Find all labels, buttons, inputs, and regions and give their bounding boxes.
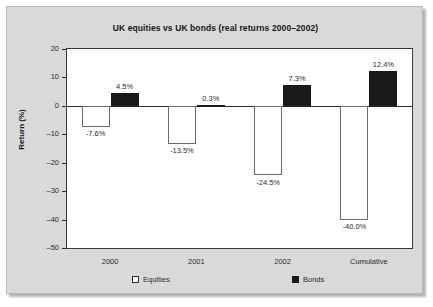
y-axis-tick-mark: [62, 134, 67, 135]
x-axis-tick-label: 2000: [102, 257, 119, 266]
y-axis-tick-label: 0: [33, 102, 59, 110]
x-axis-tick-label: Cumulative: [350, 257, 388, 266]
plot-area: 20100–10–20–30–40–50-7.6%4.5%-13.5%0.3%-…: [66, 48, 413, 249]
bar-equities-2001: [168, 106, 196, 144]
y-axis-tick-label: –50: [33, 244, 59, 252]
y-axis-tick-label: –20: [33, 159, 59, 167]
bar-value-label: -40.0%: [328, 223, 380, 231]
chart-title: UK equities vs UK bonds (real returns 20…: [7, 23, 424, 33]
bar-value-label: 12.4%: [357, 61, 409, 69]
bar-value-label: 7.3%: [271, 75, 323, 83]
bar-bonds-2002: [283, 85, 311, 106]
y-axis-tick-label: –40: [33, 216, 59, 224]
bar-value-label: 4.5%: [99, 83, 151, 91]
y-axis-tick-mark: [62, 163, 67, 164]
legend-item-bonds[interactable]: Bonds: [292, 275, 324, 284]
bar-equities-2000: [82, 106, 110, 128]
bar-bonds-2000: [111, 93, 139, 106]
y-axis-tick-label: 10: [33, 74, 59, 82]
y-axis-tick-mark: [62, 77, 67, 78]
x-axis-tick-label: 2001: [188, 257, 205, 266]
bar-value-label: -13.5%: [156, 147, 208, 155]
y-axis-title: Return (%): [17, 90, 26, 170]
bar-bonds-cumulative: [369, 71, 397, 106]
legend-item-equities[interactable]: Equities: [132, 275, 170, 284]
bar-value-label: -24.5%: [242, 179, 294, 187]
y-axis-tick-label: 20: [33, 45, 59, 53]
bar-bonds-2001: [197, 105, 225, 107]
legend-swatch-equities: [132, 276, 139, 283]
y-axis-tick-mark: [62, 191, 67, 192]
chart-figure: UK equities vs UK bonds (real returns 20…: [6, 6, 423, 294]
y-axis-tick-mark: [62, 220, 67, 221]
y-axis-tick-label: –30: [33, 187, 59, 195]
plot-inner: 20100–10–20–30–40–50-7.6%4.5%-13.5%0.3%-…: [67, 49, 412, 248]
y-axis-tick-mark: [62, 106, 67, 107]
chart-legend: EquitiesBonds: [7, 275, 424, 289]
y-axis-tick-mark: [62, 49, 67, 50]
legend-label: Bonds: [303, 275, 324, 284]
y-axis-tick-label: –10: [33, 131, 59, 139]
bar-equities-cumulative: [340, 106, 368, 220]
bar-value-label: 0.3%: [185, 95, 237, 103]
legend-swatch-bonds: [292, 276, 299, 283]
bar-equities-2002: [254, 106, 282, 176]
y-axis-tick-mark: [62, 248, 67, 249]
x-axis-tick-label: 2002: [274, 257, 291, 266]
bar-value-label: -7.6%: [70, 130, 122, 138]
legend-label: Equities: [143, 275, 170, 284]
